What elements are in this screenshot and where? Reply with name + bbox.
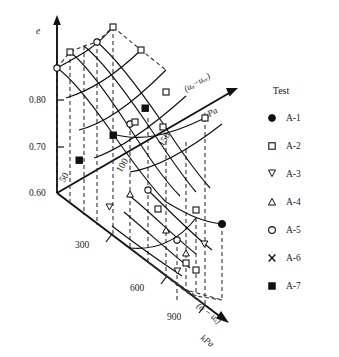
filled-square-icon xyxy=(269,283,275,289)
open-circle-icon xyxy=(269,227,276,234)
e-axis-title: e xyxy=(36,26,40,36)
legend-title: Test xyxy=(273,85,290,96)
axes-group xyxy=(53,15,238,323)
marker-a5-4 xyxy=(145,187,151,193)
marker-a2-7 xyxy=(160,124,166,130)
surface-mesh-group xyxy=(57,27,222,276)
stress-curve-300 xyxy=(79,70,166,130)
net-stress-axis-title: (σ − uₐ) xyxy=(195,301,223,326)
legend-label-a3: A-3 xyxy=(286,169,301,179)
marker-a2-9 xyxy=(193,207,199,213)
marker-a3-1 xyxy=(106,204,113,210)
marker-a2-10 xyxy=(183,260,189,266)
stress-tick-label-600: 600 xyxy=(130,283,145,293)
marker-a2-6 xyxy=(132,119,138,125)
marker-a7-2 xyxy=(110,132,116,138)
legend-item-a7[interactable]: A-7 xyxy=(269,281,301,291)
stress-tick-label-300: 300 xyxy=(75,240,90,250)
open-square-icon xyxy=(269,143,275,149)
filled-circle-icon xyxy=(269,115,276,122)
legend-item-a6[interactable]: A-6 xyxy=(269,253,301,263)
marker-a2-4 xyxy=(163,89,169,95)
marker-a5-1 xyxy=(54,65,60,71)
stress-tick-300 xyxy=(106,234,112,242)
legend-label-a1: A-1 xyxy=(286,113,301,123)
legend: Test A-1 A-2 A-3 A-4 A-5 A-6 A-7 xyxy=(268,85,301,291)
marker-a2-2 xyxy=(110,24,116,30)
suction-tick-label-50: 50 xyxy=(57,171,71,185)
projection-lines-group xyxy=(57,27,222,305)
legend-label-a7: A-7 xyxy=(286,281,301,291)
marker-a5-2 xyxy=(94,39,100,45)
legend-item-a2[interactable]: A-2 xyxy=(269,141,301,151)
e-axis-arrowhead xyxy=(53,15,61,25)
suction-axis-title: (uₐ−uᵥᵥ) xyxy=(182,71,212,94)
net-stress-axis-unit: kPa xyxy=(199,333,217,350)
e-axis-ticks: 0.80 0.70 0.60 e xyxy=(29,26,64,198)
state-surface-figure: 0.80 0.70 0.60 e 300 600 900 (σ − uₐ) kP… xyxy=(0,0,339,357)
stress-curve-600 xyxy=(113,118,205,137)
legend-label-a4: A-4 xyxy=(286,197,301,207)
marker-a4-3 xyxy=(183,250,190,256)
marker-a1-1 xyxy=(218,220,225,227)
open-up-triangle-icon xyxy=(268,198,275,205)
marker-a2-8 xyxy=(155,206,161,212)
e-tick-label-080: 0.80 xyxy=(29,95,46,105)
suction-axis-arrowhead xyxy=(226,88,238,97)
legend-label-a5: A-5 xyxy=(286,225,301,235)
marker-a5-5 xyxy=(174,237,180,243)
marker-a2-3 xyxy=(138,47,144,53)
marker-a2-1 xyxy=(67,49,73,55)
legend-item-a4[interactable]: A-4 xyxy=(268,197,301,207)
legend-item-a5[interactable]: A-5 xyxy=(269,225,301,235)
stress-tick-label-900: 900 xyxy=(167,312,182,322)
marker-a2-11 xyxy=(193,267,199,273)
legend-item-a3[interactable]: A-3 xyxy=(268,169,301,179)
legend-label-a2: A-2 xyxy=(286,141,301,151)
stress-curve-750 xyxy=(130,124,222,172)
marker-a4-1 xyxy=(127,191,134,197)
open-down-triangle-icon xyxy=(268,170,275,177)
e-tick-label-060: 0.60 xyxy=(29,188,46,198)
cross-icon xyxy=(269,255,276,262)
marker-a7-1 xyxy=(76,157,82,163)
net-stress-axis-ticks: 300 600 900 (σ − uₐ) kPa xyxy=(75,234,223,349)
legend-label-a6: A-6 xyxy=(286,253,301,263)
legend-item-a1[interactable]: A-1 xyxy=(269,113,301,123)
stress-tick-600 xyxy=(161,276,167,284)
suction-axis-ticks: 50 100 150 (uₐ−uᵥᵥ) kPa xyxy=(57,71,219,184)
marker-a7-3 xyxy=(142,105,148,111)
marker-a2-5 xyxy=(202,115,208,121)
e-tick-label-070: 0.70 xyxy=(29,142,46,152)
